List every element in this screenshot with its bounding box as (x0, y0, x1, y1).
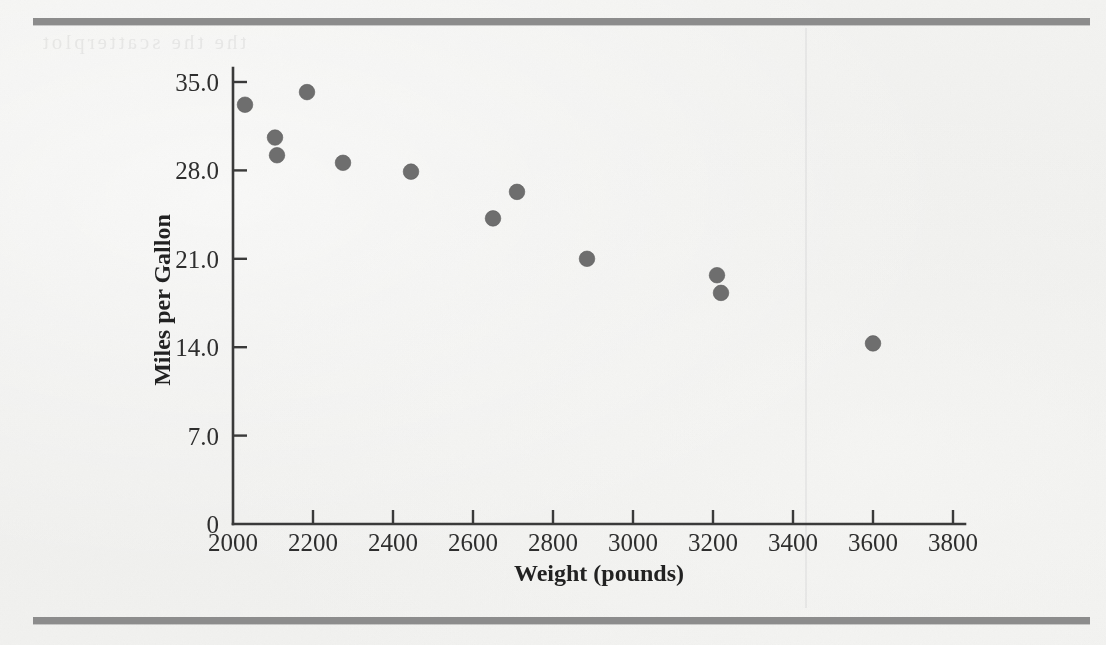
y-tick-label: 14.0 (175, 334, 219, 361)
data-point (713, 285, 729, 301)
x-tick-label: 3200 (688, 529, 738, 556)
data-point (579, 251, 595, 267)
data-point (237, 97, 253, 113)
data-point (335, 155, 351, 171)
y-axis-ticks (233, 82, 247, 436)
x-tick-label: 3400 (768, 529, 818, 556)
x-tick-label: 2400 (368, 529, 418, 556)
data-point (299, 84, 315, 100)
data-point (485, 211, 501, 227)
y-axis-tick-labels: 07.014.021.028.035.0 (175, 69, 219, 538)
x-axis-tick-labels: 2000220024002600280030003200340036003800 (208, 529, 978, 556)
data-points (237, 84, 881, 351)
scatter-plot-figure: 07.014.021.028.035.0 2000220024002600280… (0, 0, 1106, 645)
y-tick-label: 21.0 (175, 246, 219, 273)
data-point (865, 336, 881, 352)
y-tick-label: 28.0 (175, 157, 219, 184)
x-tick-label: 2000 (208, 529, 258, 556)
x-tick-label: 2800 (528, 529, 578, 556)
x-tick-label: 3800 (928, 529, 978, 556)
x-tick-label: 2600 (448, 529, 498, 556)
x-axis-ticks (313, 510, 953, 524)
x-tick-label: 3000 (608, 529, 658, 556)
y-tick-label: 35.0 (175, 69, 219, 96)
y-axis-title: Miles per Gallon (149, 214, 175, 386)
y-tick-label: 7.0 (188, 423, 219, 450)
data-point (269, 147, 285, 163)
data-point (709, 267, 725, 283)
x-tick-label: 2200 (288, 529, 338, 556)
data-point (403, 164, 419, 180)
x-tick-label: 3600 (848, 529, 898, 556)
data-point (267, 130, 283, 146)
data-point (509, 184, 525, 200)
axis-lines (233, 68, 965, 524)
x-axis-title: Weight (pounds) (514, 560, 684, 586)
